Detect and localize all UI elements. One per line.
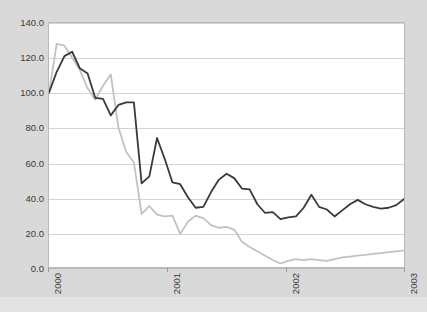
y-tick-label: 60.0	[0, 157, 44, 168]
x-tick-mark	[404, 268, 405, 272]
y-tick-label: 40.0	[0, 192, 44, 203]
y-tick-label: 140.0	[0, 17, 44, 28]
x-tick-label: 2000	[52, 273, 63, 294]
y-tick-label: 20.0	[0, 227, 44, 238]
plot-area	[48, 22, 405, 268]
y-tick-label: 100.0	[0, 87, 44, 98]
x-tick-mark	[48, 268, 49, 272]
y-tick-label: 0.0	[0, 263, 44, 274]
x-tick-mark	[286, 268, 287, 272]
x-axis-labels: 2000200120022003	[48, 268, 405, 308]
y-tick-label: 80.0	[0, 122, 44, 133]
top-caption-text	[0, 0, 427, 6]
x-tick-label: 2002	[290, 273, 301, 294]
chart-figure: 0.020.040.060.080.0100.0120.0140.0 20002…	[0, 0, 427, 312]
series-container	[49, 23, 404, 267]
x-tick-label: 2003	[408, 273, 419, 294]
x-tick-label: 2001	[171, 273, 182, 294]
line-series-light	[49, 44, 404, 264]
x-tick-mark	[167, 268, 168, 272]
line-series-dark	[49, 52, 404, 219]
y-tick-label: 120.0	[0, 52, 44, 63]
y-axis-labels: 0.020.040.060.080.0100.0120.0140.0	[0, 22, 44, 268]
